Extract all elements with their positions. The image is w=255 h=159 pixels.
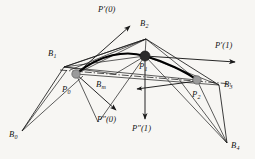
label-p0: P0 xyxy=(62,85,70,94)
label-b1: B1 xyxy=(48,49,56,58)
label-p-prime-0: P′(0) xyxy=(98,5,115,14)
label-p-double-prime-0: P″(0) xyxy=(97,115,116,124)
label-p-double-prime-1: P″(1) xyxy=(132,124,151,133)
vector-inward-left xyxy=(137,81,197,89)
chord-b0-b1inner xyxy=(22,70,67,131)
label-p2: P2 xyxy=(192,90,200,99)
label-b3: B3 xyxy=(224,80,232,89)
label-b0: B0 xyxy=(9,130,17,139)
node-p2 xyxy=(193,76,201,84)
label-b4: B4 xyxy=(231,141,239,150)
label-bm: Bm xyxy=(96,80,106,89)
bezier-diagram: B0 B1 B2 B3 B4 Bm P0 P1 P2 P′(0) P′(1) P… xyxy=(0,0,255,159)
label-b2: B2 xyxy=(140,19,148,28)
derivative-vectors xyxy=(76,26,235,119)
diagram-canvas xyxy=(0,0,255,159)
label-p1: P1 xyxy=(139,62,147,71)
chord-b4-p1 xyxy=(145,56,227,143)
node-p0 xyxy=(72,70,80,78)
label-p-prime-1: P′(1) xyxy=(215,41,232,50)
node-p1 xyxy=(140,51,150,61)
chord-p0-down xyxy=(76,74,98,122)
vector-p-prime-0 xyxy=(76,26,130,74)
